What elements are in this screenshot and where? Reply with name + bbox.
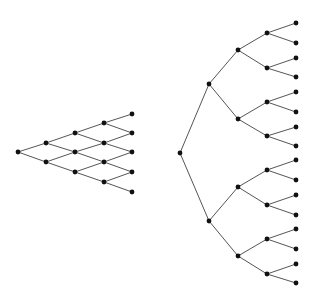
node — [73, 170, 78, 175]
edge — [267, 102, 296, 112]
edge — [104, 114, 132, 123]
node — [102, 121, 107, 126]
node — [294, 56, 299, 61]
edge — [238, 50, 267, 68]
edge — [267, 195, 296, 205]
edge — [18, 143, 46, 152]
edge — [267, 58, 296, 68]
node — [294, 75, 299, 80]
edge — [46, 143, 75, 152]
node — [130, 131, 135, 136]
node — [73, 131, 78, 136]
node — [265, 134, 270, 139]
edge — [267, 33, 296, 43]
node — [44, 141, 49, 146]
edge — [267, 274, 296, 283]
node — [294, 227, 299, 232]
edge — [209, 187, 238, 221]
node — [207, 219, 212, 224]
edge — [104, 172, 132, 182]
node — [294, 158, 299, 163]
node — [294, 90, 299, 95]
node — [236, 48, 241, 53]
node — [265, 100, 270, 105]
node — [178, 151, 183, 156]
edge — [209, 221, 238, 256]
edge — [104, 152, 132, 162]
node — [294, 125, 299, 130]
edge — [238, 33, 267, 50]
node — [102, 180, 107, 185]
edge — [180, 84, 209, 153]
edge — [267, 264, 296, 274]
binary-tree — [178, 21, 299, 286]
node — [130, 190, 135, 195]
edge — [267, 170, 296, 180]
node — [236, 185, 241, 190]
edge — [46, 133, 75, 143]
edge — [75, 143, 104, 152]
edge — [180, 153, 209, 221]
node — [102, 160, 107, 165]
node — [294, 144, 299, 149]
edge — [18, 152, 46, 162]
node — [294, 41, 299, 46]
node — [130, 170, 135, 175]
edge — [104, 133, 132, 143]
edge — [267, 160, 296, 170]
node — [265, 66, 270, 71]
edge — [209, 50, 238, 84]
edge — [75, 123, 104, 133]
edge — [267, 92, 296, 102]
diagram-canvas — [0, 0, 324, 304]
edge — [104, 162, 132, 172]
edge — [267, 127, 296, 136]
edge — [238, 102, 267, 119]
node — [130, 112, 135, 117]
edge — [104, 143, 132, 152]
node — [265, 31, 270, 36]
edge — [104, 123, 132, 133]
node — [102, 141, 107, 146]
node — [265, 272, 270, 277]
edge — [238, 170, 267, 187]
edge — [46, 152, 75, 162]
node — [44, 160, 49, 165]
edge — [238, 256, 267, 274]
edge — [267, 68, 296, 77]
node — [16, 150, 21, 155]
node — [130, 150, 135, 155]
node — [265, 237, 270, 242]
edge — [209, 84, 238, 119]
node — [294, 213, 299, 218]
edge — [46, 162, 75, 172]
node — [294, 262, 299, 267]
edge — [238, 187, 267, 205]
node — [294, 247, 299, 252]
edge — [75, 152, 104, 162]
edge — [267, 136, 296, 146]
edge — [267, 229, 296, 239]
edge — [267, 23, 296, 33]
recombining-lattice — [16, 112, 135, 195]
node — [265, 168, 270, 173]
edge — [267, 205, 296, 215]
node — [294, 21, 299, 26]
node — [265, 203, 270, 208]
node — [236, 254, 241, 259]
edge — [238, 239, 267, 256]
edge — [104, 182, 132, 192]
edge — [75, 162, 104, 172]
edge — [75, 172, 104, 182]
node — [207, 82, 212, 87]
diagram-svg — [0, 0, 324, 304]
node — [73, 150, 78, 155]
node — [236, 117, 241, 122]
edge — [267, 239, 296, 249]
node — [294, 193, 299, 198]
edge — [238, 119, 267, 136]
node — [294, 178, 299, 183]
node — [294, 281, 299, 286]
node — [294, 110, 299, 115]
edge — [75, 133, 104, 143]
